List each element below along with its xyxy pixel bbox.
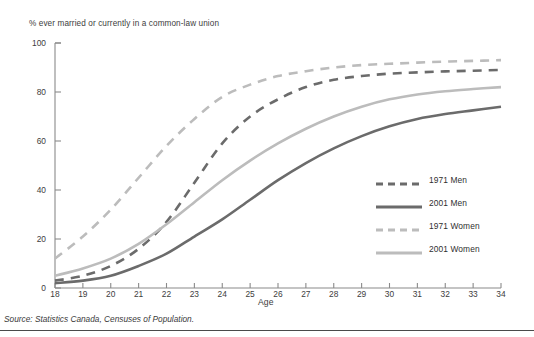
legend-item[interactable]: 1971 Women <box>376 214 506 237</box>
x-tick-label: 34 <box>492 289 510 299</box>
source-note: Source: Statistics Canada, Censuses of P… <box>4 314 194 324</box>
y-tick-label: 40 <box>22 185 46 195</box>
chart-figure: % ever married or currently in a common-… <box>0 0 534 337</box>
x-tick-label: 23 <box>185 289 203 299</box>
legend-swatch-icon <box>376 221 422 231</box>
x-tick-marks <box>55 283 501 288</box>
x-tick-label: 24 <box>213 289 231 299</box>
legend-label: 1971 Men <box>429 175 467 185</box>
y-tick-label: 80 <box>22 87 46 97</box>
legend-label: 2001 Women <box>429 244 480 254</box>
y-tick-label: 100 <box>22 38 46 48</box>
y-tick-label: 20 <box>22 234 46 244</box>
legend-swatch-icon <box>376 175 422 185</box>
legend-item[interactable]: 2001 Women <box>376 237 506 260</box>
legend-swatch-icon <box>376 198 422 208</box>
x-tick-label: 33 <box>464 289 482 299</box>
x-tick-label: 21 <box>130 289 148 299</box>
x-tick-label: 27 <box>297 289 315 299</box>
x-tick-label: 19 <box>74 289 92 299</box>
legend-item[interactable]: 2001 Men <box>376 191 506 214</box>
x-tick-label: 29 <box>353 289 371 299</box>
x-tick-label: 25 <box>241 289 259 299</box>
legend-label: 2001 Men <box>429 198 467 208</box>
x-tick-label: 30 <box>381 289 399 299</box>
y-tick-label: 60 <box>22 136 46 146</box>
x-tick-label: 31 <box>408 289 426 299</box>
x-tick-label: 32 <box>436 289 454 299</box>
chart-legend: 1971 Men2001 Men1971 Women2001 Women <box>376 168 506 260</box>
source-divider <box>0 330 534 331</box>
legend-item[interactable]: 1971 Men <box>376 168 506 191</box>
x-tick-label: 28 <box>325 289 343 299</box>
y-tick-label: 0 <box>22 283 46 293</box>
x-tick-label: 18 <box>46 289 64 299</box>
x-axis-title: Age <box>258 297 274 307</box>
legend-label: 1971 Women <box>429 221 480 231</box>
y-tick-marks <box>55 43 61 288</box>
x-tick-label: 22 <box>158 289 176 299</box>
legend-swatch-icon <box>376 244 422 254</box>
x-tick-label: 20 <box>102 289 120 299</box>
